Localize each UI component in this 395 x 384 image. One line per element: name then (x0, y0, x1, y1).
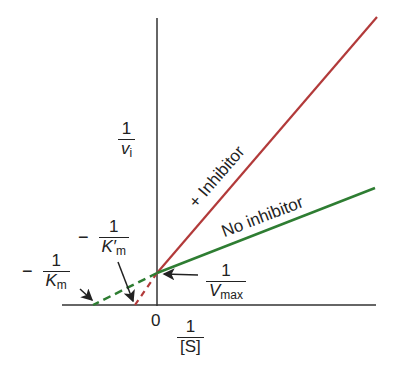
km-label: − 1 Km (22, 252, 70, 292)
inhibitor-line (157, 17, 377, 273)
km-arrow (80, 289, 92, 300)
vmax-label: 1 Vmax (206, 262, 246, 302)
vmax-arrow (164, 274, 198, 275)
km-prime-arrow (118, 262, 133, 301)
x-axis-label: 1 [S] (177, 318, 204, 356)
origin-label: 0 (151, 311, 160, 331)
inhibitor-extrapolation (135, 273, 157, 305)
y-axis-label: 1 vi (118, 120, 135, 160)
no-inhibitor-extrapolation (93, 273, 157, 305)
km-prime-label: − 1 K′m (78, 218, 129, 258)
